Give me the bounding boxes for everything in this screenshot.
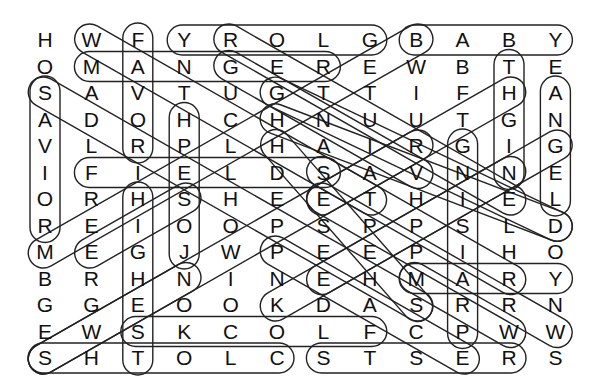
grid-letter[interactable]: H (257, 133, 297, 159)
grid-letter[interactable]: E (257, 54, 297, 80)
grid-letter[interactable]: C (211, 107, 251, 133)
grid-letter[interactable]: I (211, 266, 251, 292)
grid-letter[interactable]: P (443, 319, 483, 345)
grid-letter[interactable]: H (489, 80, 529, 106)
grid-letter[interactable]: R (396, 133, 436, 159)
grid-letter[interactable]: S (164, 186, 204, 212)
grid-letter[interactable]: S (25, 345, 65, 371)
grid-letter[interactable]: F (71, 160, 111, 186)
grid-letter[interactable]: I (25, 160, 65, 186)
grid-letter[interactable]: E (535, 54, 575, 80)
grid-letter[interactable]: E (443, 345, 483, 371)
grid-letter[interactable]: E (164, 160, 204, 186)
grid-letter[interactable]: V (118, 80, 158, 106)
grid-letter[interactable]: K (257, 292, 297, 318)
grid-letter[interactable]: U (350, 107, 390, 133)
grid-letter[interactable]: N (164, 54, 204, 80)
grid-letter[interactable]: L (489, 213, 529, 239)
grid-letter[interactable]: L (71, 133, 111, 159)
grid-letter[interactable]: S (396, 345, 436, 371)
grid-letter[interactable]: I (118, 160, 158, 186)
grid-letter[interactable]: R (489, 266, 529, 292)
grid-letter[interactable]: V (396, 160, 436, 186)
grid-letter[interactable]: S (303, 160, 343, 186)
grid-letter[interactable]: B (489, 27, 529, 53)
grid-letter[interactable]: L (211, 133, 251, 159)
grid-letter[interactable]: P (164, 133, 204, 159)
grid-letter[interactable]: W (535, 319, 575, 345)
grid-letter[interactable]: P (257, 213, 297, 239)
grid-letter[interactable]: C (396, 319, 436, 345)
grid-letter[interactable]: H (118, 186, 158, 212)
grid-letter[interactable]: E (350, 239, 390, 265)
grid-letter[interactable]: O (25, 54, 65, 80)
grid-letter[interactable]: S (443, 213, 483, 239)
grid-letter[interactable]: E (350, 54, 390, 80)
grid-letter[interactable]: O (164, 345, 204, 371)
grid-letter[interactable]: O (164, 292, 204, 318)
grid-letter[interactable]: N (164, 266, 204, 292)
grid-letter[interactable]: R (303, 54, 343, 80)
grid-letter[interactable]: W (211, 239, 251, 265)
grid-letter[interactable]: S (303, 213, 343, 239)
grid-letter[interactable]: E (71, 213, 111, 239)
grid-letter[interactable]: G (211, 54, 251, 80)
grid-letter[interactable]: H (71, 345, 111, 371)
grid-letter[interactable]: T (350, 80, 390, 106)
grid-letter[interactable]: G (25, 292, 65, 318)
grid-letter[interactable]: K (164, 319, 204, 345)
grid-letter[interactable]: O (211, 292, 251, 318)
grid-letter[interactable]: E (303, 266, 343, 292)
grid-letter[interactable]: R (489, 292, 529, 318)
grid-letter[interactable]: R (71, 266, 111, 292)
grid-letter[interactable]: P (350, 213, 390, 239)
grid-letter[interactable]: O (25, 186, 65, 212)
grid-letter[interactable]: S (118, 319, 158, 345)
grid-letter[interactable]: N (535, 292, 575, 318)
grid-letter[interactable]: O (535, 239, 575, 265)
grid-letter[interactable]: H (211, 186, 251, 212)
grid-letter[interactable]: G (257, 80, 297, 106)
grid-letter[interactable]: H (489, 239, 529, 265)
grid-letter[interactable]: S (535, 345, 575, 371)
grid-letter[interactable]: N (257, 266, 297, 292)
grid-letter[interactable]: W (71, 27, 111, 53)
grid-letter[interactable]: D (257, 160, 297, 186)
grid-letter[interactable]: O (211, 213, 251, 239)
grid-letter[interactable]: E (303, 239, 343, 265)
grid-letter[interactable]: M (396, 266, 436, 292)
grid-letter[interactable]: U (396, 107, 436, 133)
grid-letter[interactable]: N (303, 107, 343, 133)
grid-letter[interactable]: W (71, 319, 111, 345)
grid-letter[interactable]: L (211, 160, 251, 186)
grid-letter[interactable]: I (489, 133, 529, 159)
grid-letter[interactable]: A (25, 107, 65, 133)
grid-letter[interactable]: T (164, 80, 204, 106)
grid-letter[interactable]: R (71, 186, 111, 212)
grid-letter[interactable]: T (118, 345, 158, 371)
grid-letter[interactable]: S (303, 345, 343, 371)
grid-letter[interactable]: E (25, 319, 65, 345)
grid-letter[interactable]: Y (535, 27, 575, 53)
grid-letter[interactable]: L (303, 27, 343, 53)
grid-letter[interactable]: I (396, 80, 436, 106)
grid-letter[interactable]: W (396, 54, 436, 80)
grid-letter[interactable]: A (71, 80, 111, 106)
grid-letter[interactable]: O (257, 319, 297, 345)
grid-letter[interactable]: T (303, 80, 343, 106)
grid-letter[interactable]: D (71, 107, 111, 133)
grid-letter[interactable]: N (489, 160, 529, 186)
grid-letter[interactable]: J (164, 239, 204, 265)
grid-letter[interactable]: U (211, 80, 251, 106)
grid-letter[interactable]: A (303, 133, 343, 159)
grid-letter[interactable]: I (443, 239, 483, 265)
grid-letter[interactable]: B (25, 266, 65, 292)
grid-letter[interactable]: D (303, 292, 343, 318)
grid-letter[interactable]: A (535, 80, 575, 106)
grid-letter[interactable]: E (118, 292, 158, 318)
grid-letter[interactable]: G (489, 107, 529, 133)
grid-letter[interactable]: H (25, 27, 65, 53)
grid-letter[interactable]: R (443, 292, 483, 318)
grid-letter[interactable]: E (257, 186, 297, 212)
grid-letter[interactable]: R (489, 345, 529, 371)
